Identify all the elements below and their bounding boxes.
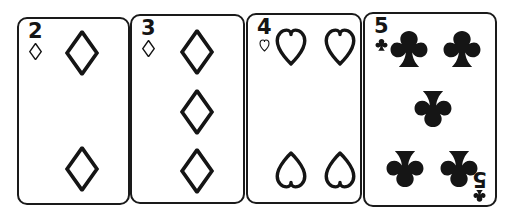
- card-three-of-diamonds[interactable]: 3: [130, 14, 245, 204]
- card-rank-label: 3: [141, 18, 155, 39]
- diamond-icon: [142, 40, 155, 57]
- diamond-icon: [180, 30, 214, 75]
- diamond-icon: [180, 149, 214, 194]
- club-icon: [413, 88, 453, 130]
- club-icon: [474, 189, 487, 203]
- card-rank-label: 4: [257, 17, 271, 38]
- card-rank-label: 2: [28, 21, 42, 42]
- diamond-icon: [65, 31, 99, 76]
- diamond-icon: [29, 43, 42, 60]
- card-four-of-hearts[interactable]: 4: [246, 13, 362, 204]
- diamond-icon: [180, 90, 214, 135]
- diamond-icon: [65, 147, 99, 192]
- card-rank-label: 5: [374, 16, 388, 37]
- card-five-of-clubs[interactable]: 55: [363, 12, 497, 207]
- club-icon: [442, 28, 482, 70]
- card-two-of-diamonds[interactable]: 2: [17, 17, 130, 205]
- card-index-top-left: 2: [24, 21, 46, 60]
- heart-icon: [258, 39, 271, 52]
- playing-cards-scene: 23455: [0, 0, 512, 218]
- heart-icon: [320, 150, 360, 190]
- club-icon: [375, 38, 388, 52]
- club-icon: [385, 148, 425, 190]
- heart-icon: [320, 27, 360, 67]
- heart-icon: [271, 27, 311, 67]
- club-icon: [439, 148, 479, 190]
- heart-icon: [271, 150, 311, 190]
- club-icon: [389, 28, 429, 70]
- card-index-top-left: 3: [137, 18, 159, 57]
